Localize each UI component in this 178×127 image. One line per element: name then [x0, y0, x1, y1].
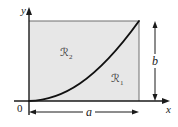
width-arrowhead-right: [132, 110, 139, 115]
width-arrowhead-left: [29, 110, 36, 115]
shaded-rectangle: [29, 21, 139, 101]
height-dimension-label: b: [152, 54, 158, 68]
region-upper-subscript: 2: [69, 53, 73, 61]
height-arrowhead-bottom: [153, 94, 158, 101]
figure-container: y x 0 a b ℛ2 ℛ1: [0, 0, 178, 127]
x-axis-label: x: [165, 103, 171, 115]
region-diagram: y x 0 a b ℛ2 ℛ1: [0, 0, 178, 127]
width-dimension-label: a: [86, 105, 92, 119]
region-upper-symbol: ℛ: [60, 46, 69, 58]
origin-label: 0: [17, 102, 23, 114]
y-axis-label: y: [20, 4, 26, 16]
height-arrowhead-top: [153, 21, 158, 28]
y-axis-arrowhead: [26, 7, 32, 15]
region-lower-symbol: ℛ: [111, 72, 120, 84]
region-lower-subscript: 1: [120, 79, 124, 87]
